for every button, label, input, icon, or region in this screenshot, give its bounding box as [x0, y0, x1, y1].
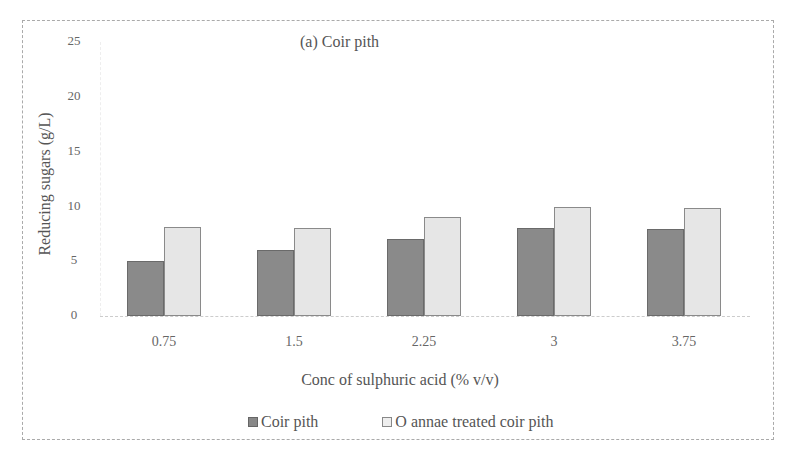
- y-tick-label: 0: [60, 307, 88, 323]
- y-tick-label: 15: [60, 143, 88, 159]
- x-tick-label: 0.75: [124, 334, 204, 350]
- legend: Coir pith O annae treated coir pith: [248, 413, 554, 431]
- bar-coir-pith: [647, 229, 684, 316]
- y-axis: [100, 42, 101, 316]
- legend-swatch-light: [382, 417, 392, 427]
- chart-title: (a) Coir pith: [300, 33, 379, 51]
- bar-treated-coir-pith: [424, 217, 461, 316]
- y-tick-label: 20: [60, 88, 88, 104]
- x-tick-label: 2.25: [384, 334, 464, 350]
- x-tick-label: 1.5: [254, 334, 334, 350]
- bar-treated-coir-pith: [164, 227, 201, 316]
- bar-treated-coir-pith: [684, 208, 721, 316]
- bar-coir-pith: [257, 250, 294, 316]
- x-tick-label: 3.75: [644, 334, 724, 350]
- y-axis-label: Reducing sugars (g/L): [36, 84, 54, 284]
- y-tick-label: 5: [60, 252, 88, 268]
- bar-coir-pith: [387, 239, 424, 316]
- bar-treated-coir-pith: [554, 207, 591, 317]
- x-tick-label: 3: [514, 334, 594, 350]
- legend-item-treated: O annae treated coir pith: [382, 413, 553, 431]
- legend-label: Coir pith: [261, 413, 318, 431]
- legend-item-coir-pith: Coir pith: [248, 413, 318, 431]
- legend-swatch-dark: [248, 417, 258, 427]
- legend-label: O annae treated coir pith: [395, 413, 553, 431]
- y-tick-label: 10: [60, 198, 88, 214]
- bar-coir-pith: [517, 228, 554, 316]
- x-axis-label: Conc of sulphuric acid (% v/v): [200, 371, 600, 389]
- bar-coir-pith: [127, 261, 164, 316]
- y-tick-label: 25: [60, 33, 88, 49]
- bar-treated-coir-pith: [294, 228, 331, 316]
- x-axis: [100, 316, 750, 317]
